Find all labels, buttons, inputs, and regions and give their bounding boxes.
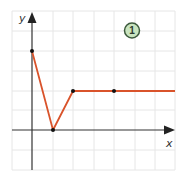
graph-badge: 1 [125, 23, 140, 38]
y-axis-arrow-icon [28, 12, 37, 23]
x-axis-label: x [165, 137, 173, 150]
data-point [30, 49, 34, 53]
y-axis-label: y [18, 12, 26, 25]
x-axis-arrow-icon [164, 126, 175, 135]
data-point [51, 128, 55, 132]
graph-canvas: x y 1 [0, 0, 183, 179]
badge-number: 1 [129, 25, 135, 36]
data-point [112, 89, 116, 93]
data-point [71, 89, 75, 93]
